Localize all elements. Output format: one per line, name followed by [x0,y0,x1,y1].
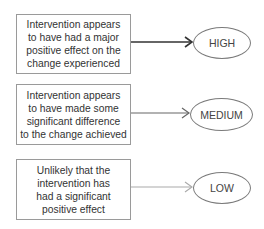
level-ellipse-medium: MEDIUM [190,98,253,131]
arrow-low [131,182,192,192]
description-box-low: Unlikely that the intervention has had a… [16,159,131,220]
description-box-medium: Intervention appears to have made some s… [16,84,131,145]
level-label-medium: MEDIUM [200,109,243,121]
level-ellipse-high: HIGH [193,27,251,59]
description-text-low: Unlikely that the intervention has had a… [36,164,110,216]
description-box-high: Intervention appears to have had a major… [16,14,131,74]
level-label-high: HIGH [209,37,235,49]
description-text-medium: Intervention appears to have made some s… [20,89,126,141]
level-ellipse-low: LOW [193,172,251,204]
level-label-low: LOW [210,182,234,194]
description-text-high: Intervention appears to have had a major… [26,18,120,70]
arrow-medium [131,108,189,118]
arrow-high [131,37,192,47]
